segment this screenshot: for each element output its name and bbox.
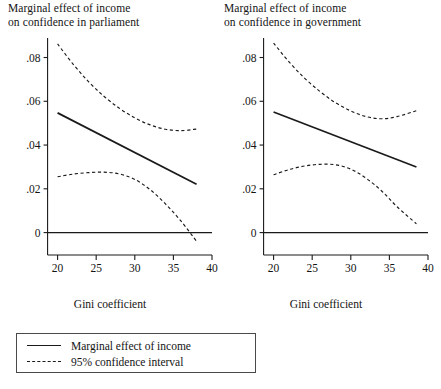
marginal-effect-line — [274, 112, 417, 167]
x-axis-tick-label: 30 — [345, 262, 357, 274]
marginal-effects-figure: Marginal effect of income on confidence … — [0, 0, 441, 389]
y-axis-tick-label: .04 — [26, 139, 41, 151]
plot-area-government: 0.02.04.06.082025303540 — [216, 34, 436, 289]
panel-title-government: Marginal effect of income on confidence … — [224, 2, 434, 29]
y-axis-tick-label: .08 — [26, 52, 41, 64]
plot-svg-government: 0.02.04.06.082025303540 — [216, 34, 436, 289]
y-axis-tick-label: .02 — [26, 183, 41, 195]
x-axis-tick-label: 20 — [268, 262, 280, 274]
y-axis-tick-label: .08 — [242, 52, 257, 64]
y-axis-tick-label: 0 — [35, 227, 41, 239]
confidence-interval-curve — [274, 164, 417, 224]
y-axis-tick-label: .06 — [26, 95, 41, 107]
y-axis-tick-label: .04 — [242, 139, 257, 151]
panel-container: Marginal effect of income on confidence … — [0, 0, 441, 322]
y-axis-tick-label: .02 — [242, 183, 257, 195]
chart-panel-parliament: Marginal effect of income on confidence … — [0, 0, 220, 322]
marginal-effect-line — [58, 113, 197, 184]
confidence-interval-curve — [58, 172, 197, 241]
legend-label-marginal-effect: Marginal effect of income — [71, 340, 191, 352]
confidence-interval-curve — [58, 44, 197, 131]
legend-item-confidence-interval: 95% confidence interval — [27, 354, 183, 370]
confidence-interval-curve — [274, 43, 417, 119]
legend-label-confidence-interval: 95% confidence interval — [71, 356, 183, 368]
x-axis-tick-label: 40 — [422, 262, 434, 274]
x-axis-tick-label: 25 — [306, 262, 318, 274]
plot-svg-parliament: 0.02.04.06.082025303540 — [0, 34, 220, 289]
x-axis-label-government: Gini coefficient — [216, 298, 436, 310]
legend-swatch-dashed-icon — [27, 357, 61, 367]
x-axis-tick-label: 35 — [168, 262, 180, 274]
x-axis-tick-label: 20 — [52, 262, 64, 274]
y-axis-tick-label: .06 — [242, 95, 257, 107]
chart-panel-government: Marginal effect of income on confidence … — [216, 0, 436, 322]
plot-area-parliament: 0.02.04.06.082025303540 — [0, 34, 220, 289]
x-axis-label-parliament: Gini coefficient — [0, 298, 220, 310]
legend-item-marginal-effect: Marginal effect of income — [27, 338, 191, 354]
x-axis-tick-label: 25 — [90, 262, 102, 274]
legend: Marginal effect of income 95% confidence… — [16, 333, 256, 373]
panel-title-parliament: Marginal effect of income on confidence … — [8, 2, 218, 29]
x-axis-tick-label: 30 — [129, 262, 141, 274]
x-axis-tick-label: 35 — [384, 262, 396, 274]
y-axis-tick-label: 0 — [251, 227, 257, 239]
legend-swatch-solid-icon — [27, 341, 61, 351]
